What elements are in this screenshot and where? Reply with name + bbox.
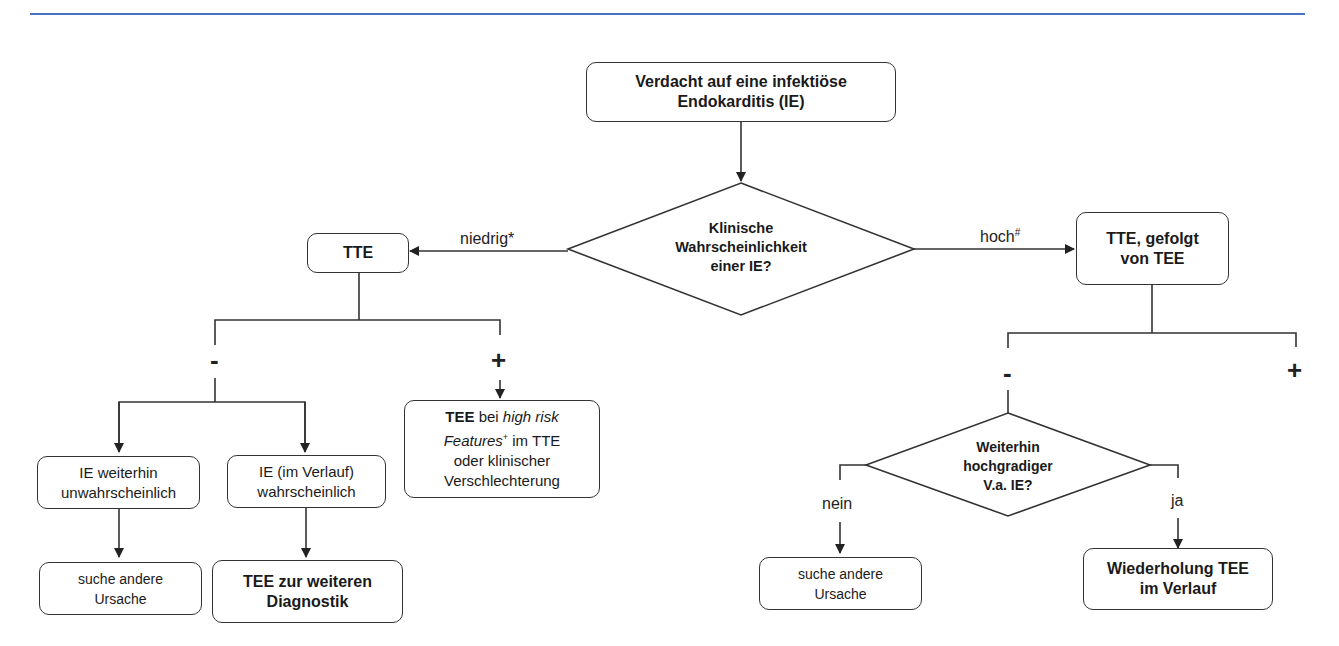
decision2-line2: hochgradiger: [933, 457, 1083, 476]
decision1-line3: einer IE?: [641, 257, 841, 276]
decision-persistent-suspicion: Weiterhin hochgradiger V.a. IE?: [933, 438, 1083, 495]
decision1-line2: Wahrscheinlichkeit: [641, 238, 841, 257]
ie-unlikely-line2: unwahrscheinlich: [61, 483, 176, 503]
start-line2: Endokarditis (IE): [635, 92, 847, 112]
tee-high-risk-node: TEE bei high risk Features+ im TTE oder …: [404, 400, 600, 498]
tte-tee-line1: TTE, gefolgt: [1106, 229, 1198, 249]
high-risk-text: high risk: [503, 408, 559, 425]
features-text: Features: [444, 432, 503, 449]
repeat-tee-line1: Wiederholung TEE: [1107, 559, 1249, 579]
tte-tee-line2: von TEE: [1106, 249, 1198, 269]
decision1-line1: Klinische: [641, 219, 841, 238]
repeat-tee-node: Wiederholung TEE im Verlauf: [1083, 548, 1273, 610]
repeat-tee-line2: im Verlauf: [1107, 579, 1249, 599]
sign-minus-left: -: [210, 345, 219, 376]
other-cause-right-line2: Ursache: [798, 584, 883, 604]
other-cause-left-node: suche andere Ursache: [39, 562, 202, 615]
tee-line4: Verschlechterung: [444, 471, 561, 491]
edge-label-low: niedrig*: [460, 230, 514, 248]
ie-likely-node: IE (im Verlauf) wahrscheinlich: [227, 455, 386, 508]
edge-label-no: nein: [822, 495, 852, 513]
sign-plus-left: +: [491, 345, 506, 376]
edge-label-yes: ja: [1171, 492, 1183, 510]
edge-label-high-text: hoch: [980, 228, 1015, 245]
ie-likely-line2: wahrscheinlich: [257, 482, 355, 502]
start-node: Verdacht auf eine infektiöse Endokarditi…: [586, 62, 896, 122]
sign-plus-right: +: [1287, 355, 1302, 386]
edge-label-high: hoch#: [980, 227, 1020, 246]
other-cause-right-node: suche andere Ursache: [759, 557, 922, 610]
other-cause-left-line1: suche andere: [78, 569, 163, 589]
edge-label-high-sup: #: [1015, 227, 1021, 238]
sign-minus-right: -: [1003, 358, 1012, 389]
tee-bei: bei: [474, 408, 502, 425]
ie-unlikely-node: IE weiterhin unwahrscheinlich: [37, 456, 200, 509]
tte-node: TTE: [307, 233, 409, 273]
im-tte-text: im TTE: [508, 432, 560, 449]
tte-then-tee-node: TTE, gefolgt von TEE: [1076, 212, 1229, 285]
decision-clinical-probability: Klinische Wahrscheinlichkeit einer IE?: [641, 219, 841, 276]
tee-line3: oder klinischer: [444, 451, 561, 471]
tee-further-diagnostics-node: TEE zur weiteren Diagnostik: [212, 560, 403, 623]
ie-likely-line1: IE (im Verlauf): [257, 462, 355, 482]
decision2-line3: V.a. IE?: [933, 476, 1083, 495]
tee-further-line2: Diagnostik: [243, 592, 372, 612]
other-cause-right-line1: suche andere: [798, 564, 883, 584]
decision2-line1: Weiterhin: [933, 438, 1083, 457]
tee-further-line1: TEE zur weiteren: [243, 572, 372, 592]
tte-label: TTE: [343, 243, 373, 263]
other-cause-left-line2: Ursache: [78, 589, 163, 609]
tee-bold: TEE: [445, 408, 474, 425]
start-line1: Verdacht auf eine infektiöse: [635, 72, 847, 92]
ie-unlikely-line1: IE weiterhin: [61, 463, 176, 483]
